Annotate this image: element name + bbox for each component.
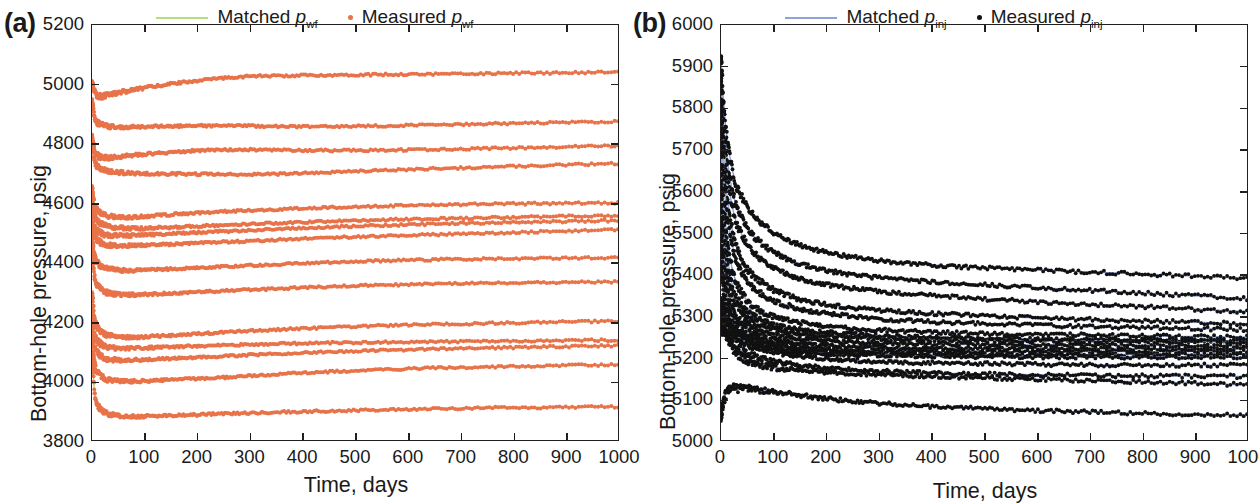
axis-tick-mark [1090, 433, 1092, 440]
axis-tick-mark [1240, 191, 1247, 193]
axis-tick-mark [92, 203, 99, 205]
axis-tick-mark [250, 25, 252, 32]
x-tick-label: 600 [378, 448, 438, 467]
axis-tick-mark [514, 25, 516, 32]
x-tick-label: 800 [1112, 448, 1172, 467]
axis-tick-mark [355, 433, 357, 440]
panel-a-plot-area [91, 24, 619, 441]
measured-pressure-markers [92, 290, 618, 340]
axis-tick-mark [514, 433, 516, 440]
axis-tick-mark [1143, 25, 1145, 32]
measured-pressure-markers [92, 133, 618, 162]
axis-tick-mark [931, 433, 933, 440]
x-tick-label: 400 [272, 448, 332, 467]
axis-tick-mark [461, 433, 463, 440]
panel-b-data-series [721, 25, 1247, 440]
axis-tick-mark [1240, 233, 1247, 235]
y-tick-label: 5500 [641, 224, 713, 243]
axis-tick-mark [721, 358, 728, 360]
x-tick-label: 500 [325, 448, 385, 467]
x-tick-label: 800 [483, 448, 543, 467]
axis-tick-mark [1240, 66, 1247, 68]
axis-tick-mark [611, 262, 618, 264]
axis-tick-mark [721, 233, 728, 235]
panel-b-plot-area [720, 24, 1248, 441]
x-tick-label: 300 [848, 448, 908, 467]
axis-tick-mark [1240, 400, 1247, 402]
axis-tick-mark [879, 25, 881, 32]
axis-tick-mark [1090, 25, 1092, 32]
axis-tick-mark [721, 191, 728, 193]
panel-b-x-axis-title: Time, days [720, 479, 1250, 504]
y-tick-label: 5900 [641, 57, 713, 76]
axis-tick-mark [1240, 316, 1247, 318]
axis-tick-mark [773, 25, 775, 32]
axis-tick-mark [879, 433, 881, 440]
x-tick-label: 600 [1007, 448, 1067, 467]
x-tick-label: 700 [1060, 448, 1120, 467]
figure-bottom-hole-pressure-history-match: (a) Bottom-hole pressure, psig Time, day… [0, 0, 1259, 504]
axis-tick-mark [1037, 25, 1039, 32]
axis-tick-mark [92, 143, 99, 145]
y-tick-label: 5100 [641, 390, 713, 409]
axis-tick-mark [250, 433, 252, 440]
legend-line-swatch [156, 17, 208, 19]
x-tick-label: 100 [743, 448, 803, 467]
measured-pressure-markers [721, 382, 1247, 422]
axis-tick-mark [92, 322, 99, 324]
axis-tick-mark [611, 143, 618, 145]
measured-pressure-markers [92, 97, 618, 130]
panel-a-data-series [92, 25, 618, 440]
axis-tick-mark [1240, 108, 1247, 110]
axis-tick-mark [408, 25, 410, 32]
axis-tick-mark [144, 25, 146, 32]
x-tick-label: 0 [61, 448, 121, 467]
axis-tick-mark [721, 66, 728, 68]
axis-tick-mark [92, 262, 99, 264]
measured-pressure-markers [92, 354, 618, 419]
axis-tick-mark [92, 382, 99, 384]
axis-tick-mark [197, 433, 199, 440]
axis-tick-mark [1195, 433, 1197, 440]
axis-tick-mark [1240, 358, 1247, 360]
y-tick-label: 5700 [641, 140, 713, 159]
y-tick-label: 4800 [12, 134, 84, 153]
y-tick-label: 4000 [12, 372, 84, 391]
x-tick-label: 1000 [1218, 448, 1259, 467]
x-tick-label: 400 [901, 448, 961, 467]
x-tick-label: 700 [431, 448, 491, 467]
axis-tick-mark [826, 25, 828, 32]
axis-tick-mark [144, 433, 146, 440]
panel-a-x-axis-title: Time, days [91, 473, 621, 498]
matched-pressure-line [92, 292, 618, 337]
legend-marker-swatch [348, 15, 353, 20]
axis-tick-mark [1143, 433, 1145, 440]
y-tick-label: 5400 [641, 265, 713, 284]
axis-tick-mark [1240, 274, 1247, 276]
axis-tick-mark [1195, 25, 1197, 32]
axis-tick-mark [566, 25, 568, 32]
axis-tick-mark [302, 25, 304, 32]
axis-tick-mark [931, 25, 933, 32]
axis-tick-mark [721, 400, 728, 402]
axis-tick-mark [611, 382, 618, 384]
axis-tick-mark [355, 25, 357, 32]
y-tick-label: 5300 [641, 307, 713, 326]
y-tick-label: 5000 [12, 75, 84, 94]
axis-tick-mark [721, 149, 728, 151]
axis-tick-mark [826, 433, 828, 440]
x-tick-label: 900 [1165, 448, 1225, 467]
axis-tick-mark [408, 433, 410, 440]
panel-b: (b) Bottom-hole pressure, psig Time, day… [629, 0, 1259, 504]
axis-tick-mark [721, 108, 728, 110]
x-tick-label: 300 [219, 448, 279, 467]
y-tick-label: 4400 [12, 253, 84, 272]
axis-tick-mark [92, 84, 99, 86]
legend-marker-swatch [977, 15, 982, 20]
axis-tick-mark [773, 433, 775, 440]
x-tick-label: 200 [167, 448, 227, 467]
y-tick-label: 6000 [641, 15, 713, 34]
y-tick-label: 5600 [641, 182, 713, 201]
matched-pressure-line [721, 388, 1247, 415]
y-tick-label: 5200 [12, 15, 84, 34]
